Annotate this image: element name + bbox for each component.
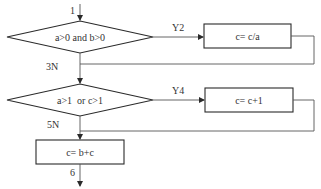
decision-1: a>0 and b>0 [7,21,153,53]
edge-label-y4: Y4 [172,85,184,96]
edge-d2-no: 5N [47,116,80,139]
decision-2-condition: a>1 or c>1 [57,95,103,106]
process-3-statement: c= b+c [66,147,94,158]
edge-label-y2: Y2 [172,22,184,33]
edge-label-3n: 3N [46,61,58,72]
edge-label-entry: 1 [70,5,75,16]
exit-edge: 6 [70,164,80,186]
process-3: c= b+c [36,140,124,164]
edge-d1-yes: Y2 [153,22,203,37]
decision-2: a>1 or c>1 [7,84,153,116]
flowchart-canvas: 1 a>0 and b>0 Y2 c= c/a 3N a>1 or c>1 Y4… [0,0,321,189]
decision-1-condition: a>0 and b>0 [55,32,105,43]
edge-d2-yes: Y4 [153,85,204,100]
process-2-statement: c= c+1 [235,95,263,106]
process-1-statement: c= c/a [235,31,260,42]
edge-label-5n: 5N [47,119,59,130]
edge-label-exit: 6 [70,167,75,178]
entry-edge: 1 [70,4,80,20]
edge-d1-no: 3N [46,53,80,83]
process-2: c= c+1 [205,88,293,112]
process-1: c= c/a [204,24,291,48]
